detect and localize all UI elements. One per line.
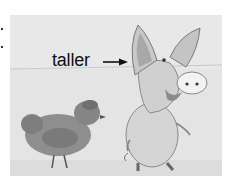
illustration-frame: taller — [10, 15, 222, 176]
illustration-art — [10, 15, 222, 176]
taller-label: taller — [52, 50, 90, 71]
bullet-mark-2 — [1, 46, 3, 48]
bullet-mark-1 — [1, 28, 3, 30]
